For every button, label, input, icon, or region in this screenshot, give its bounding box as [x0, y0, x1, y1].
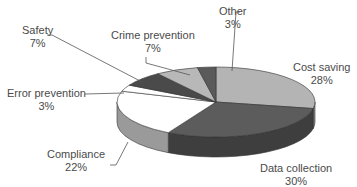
pie-slices	[117, 67, 315, 137]
label-data-collection-pct: 30%	[260, 175, 332, 187]
label-crime-prevention-name: Crime prevention	[111, 29, 195, 42]
leader-line-compliance	[110, 142, 128, 165]
leader-line-error-prevention	[85, 93, 124, 94]
label-cost-saving-name: Cost saving	[293, 61, 350, 74]
label-crime-prevention-pct: 7%	[111, 42, 195, 55]
label-safety-name: Safety	[22, 24, 53, 37]
label-other-pct: 3%	[219, 18, 247, 31]
label-crime-prevention: Crime prevention 7%	[111, 29, 195, 55]
label-compliance-pct: 22%	[47, 161, 105, 174]
label-other: Other 3%	[219, 5, 247, 31]
label-cost-saving: Cost saving 28%	[293, 61, 350, 87]
label-safety: Safety 7%	[22, 24, 53, 50]
label-error-prevention: Error prevention 3%	[7, 87, 86, 113]
label-error-prevention-pct: 3%	[7, 100, 86, 113]
label-data-collection: Data collection 30%	[260, 162, 332, 187]
label-other-name: Other	[219, 5, 247, 18]
label-safety-pct: 7%	[22, 37, 53, 50]
label-data-collection-name: Data collection	[260, 162, 332, 175]
label-error-prevention-name: Error prevention	[7, 87, 86, 100]
label-compliance: Compliance 22%	[47, 148, 105, 174]
label-compliance-name: Compliance	[47, 148, 105, 161]
label-cost-saving-pct: 28%	[293, 74, 350, 87]
